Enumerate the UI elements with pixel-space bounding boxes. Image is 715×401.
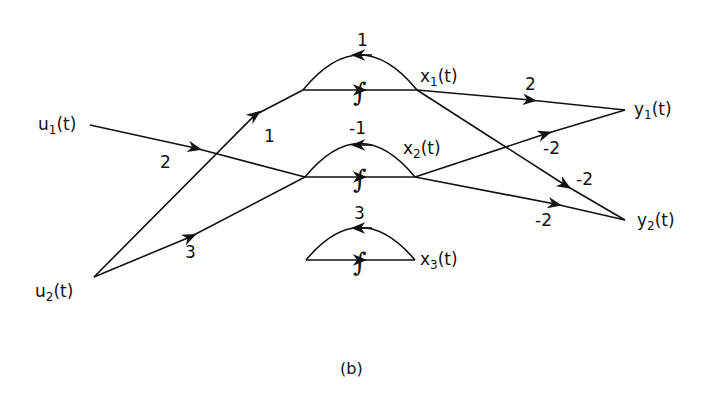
node-x1-name: x [420, 66, 430, 86]
gain-x1-y1: 2 [525, 76, 536, 93]
gain-u1-x2: 2 [160, 154, 171, 171]
branch-u2-x1 [94, 90, 303, 277]
node-x3-sub: 3 [430, 258, 438, 272]
branch-x1-y1 [417, 90, 625, 110]
node-y2-name: y [637, 210, 647, 230]
integrator-icon-1: ∫ [353, 77, 367, 107]
integrator-icon-3: ∫ [353, 247, 367, 277]
branch-x1-y2 [417, 90, 625, 220]
node-x3-arg: (t) [438, 249, 458, 269]
node-y1-arg: (t) [652, 99, 672, 119]
node-x3: x3(t) [420, 251, 458, 271]
node-x2: x2(t) [403, 140, 441, 160]
node-x1: x1(t) [420, 68, 458, 88]
node-y2-sub: 2 [647, 219, 655, 233]
node-u2-name: u [35, 281, 46, 301]
node-x2-name: x [403, 138, 413, 158]
node-u1-arg: (t) [56, 114, 76, 134]
signal-flow-graph: ∫ ∫ ∫ [0, 0, 715, 401]
node-x2-arg: (t) [421, 138, 441, 158]
integrator-icon-2: ∫ [353, 164, 367, 194]
node-x3-name: x [420, 249, 430, 269]
gain-x2-y1: -2 [543, 140, 560, 157]
node-u2-arg: (t) [53, 281, 73, 301]
gain-loop-x3: 3 [354, 205, 365, 222]
gain-u2-x2: 3 [185, 244, 196, 261]
gain-loop-x2: -1 [349, 120, 366, 137]
node-y2-arg: (t) [655, 210, 675, 230]
node-x1-arg: (t) [438, 66, 458, 86]
node-x1-sub: 1 [430, 75, 438, 89]
node-y1-name: y [634, 99, 644, 119]
node-u1: u1(t) [38, 116, 76, 136]
figure-caption: (b) [340, 361, 363, 377]
node-u2: u2(t) [35, 283, 73, 303]
node-x2-sub: 2 [413, 147, 421, 161]
node-y1-sub: 1 [644, 108, 652, 122]
gain-loop-x1: 1 [357, 32, 368, 49]
gain-u2-x1: 1 [264, 128, 275, 145]
branch-x2-y1 [415, 110, 625, 177]
gain-x2-y2: -2 [535, 212, 552, 229]
gain-x1-y2: -2 [576, 171, 593, 188]
branch-u2-x2 [94, 177, 305, 277]
node-y2: y2(t) [637, 212, 675, 232]
node-u1-name: u [38, 114, 49, 134]
branch-x2-y2 [415, 177, 625, 220]
node-y1: y1(t) [634, 101, 672, 121]
